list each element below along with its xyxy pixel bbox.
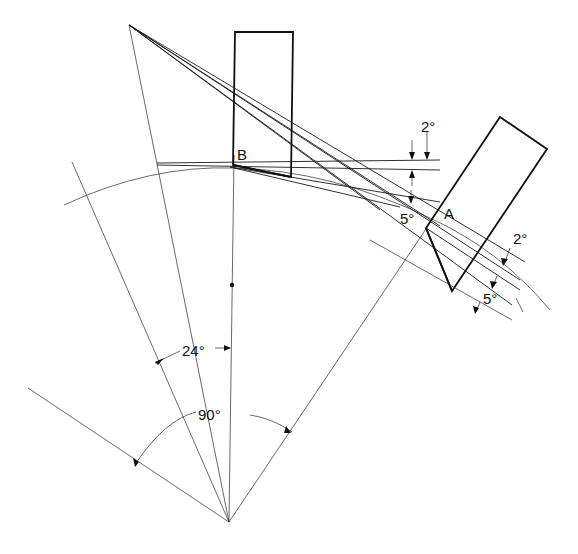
- label-a: A: [444, 205, 454, 222]
- label-angle-24: 24°: [182, 342, 205, 359]
- line-top-3: [129, 25, 440, 226]
- rectangle-a-edge: [426, 228, 452, 291]
- converging-lines: [129, 25, 525, 305]
- label-angle-right-5: 5°: [483, 290, 497, 307]
- center-point: [230, 283, 234, 287]
- radial-line-vertical: [229, 155, 234, 522]
- radial-line-left-24: [72, 162, 229, 522]
- line-top-2: [129, 25, 525, 262]
- line-a-3: [516, 298, 523, 312]
- reference-arc: [64, 168, 550, 310]
- horizontal-line-1: [157, 160, 440, 163]
- geometry-diagram: B A 2° 5° 2° 5° 24° 90°: [0, 0, 578, 554]
- rectangle-a: [426, 117, 547, 291]
- radial-line-left-inner: [129, 25, 229, 522]
- label-angle-top-2: 2°: [421, 118, 435, 135]
- line-top-5: [129, 25, 512, 305]
- horizontal-line-4: [230, 167, 400, 207]
- lines-near-a: [370, 228, 523, 320]
- label-angle-90: 90°: [198, 406, 221, 423]
- radial-line-right-90: [229, 226, 428, 522]
- label-angle-mid-5: 5°: [400, 210, 414, 227]
- label-b: B: [237, 146, 247, 163]
- radial-lines: [28, 25, 428, 522]
- horizontal-line-2: [157, 165, 440, 170]
- label-angle-right-2: 2°: [513, 230, 527, 247]
